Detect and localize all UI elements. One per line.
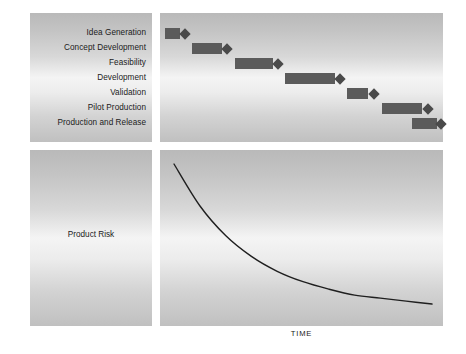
- phase-label-idea-generation: Idea Generation: [30, 25, 146, 40]
- gantt-milestone-marker: [334, 73, 345, 84]
- gantt-milestone-marker: [435, 118, 446, 129]
- phase-label-development: Development: [30, 70, 146, 85]
- phase-label-production-and-release: Production and Release: [30, 115, 146, 130]
- gantt-bar: [285, 73, 335, 84]
- gantt-bar: [165, 28, 180, 39]
- phase-label-concept-development: Concept Development: [30, 40, 146, 55]
- risk-decay-curve: [160, 150, 443, 326]
- product-risk-label: Product Risk: [30, 230, 152, 239]
- risk-curve-panel: [160, 150, 443, 326]
- gantt-row: [160, 115, 443, 130]
- gantt-bar: [192, 43, 222, 54]
- phase-label-validation: Validation: [30, 85, 146, 100]
- gantt-chart-panel: [160, 13, 443, 142]
- gantt-rows: [160, 13, 443, 142]
- gantt-milestone-marker: [272, 58, 283, 69]
- gantt-bar: [412, 118, 437, 129]
- phase-label-pilot-production: Pilot Production: [30, 100, 146, 115]
- gantt-milestone-marker: [179, 28, 190, 39]
- phase-label-list: Idea Generation Concept Development Feas…: [30, 13, 146, 142]
- gantt-row: [160, 55, 443, 70]
- gantt-milestone-marker: [422, 103, 433, 114]
- gantt-milestone-marker: [368, 88, 379, 99]
- time-axis-label: TIME: [160, 329, 443, 338]
- gantt-row: [160, 85, 443, 100]
- figure-canvas: Idea Generation Concept Development Feas…: [0, 0, 466, 354]
- gantt-bar: [347, 88, 368, 99]
- gantt-bar: [235, 58, 273, 69]
- gantt-row: [160, 25, 443, 40]
- gantt-row: [160, 40, 443, 55]
- gantt-row: [160, 100, 443, 115]
- gantt-row: [160, 70, 443, 85]
- phase-labels-panel: Idea Generation Concept Development Feas…: [30, 13, 152, 142]
- gantt-milestone-marker: [221, 43, 232, 54]
- gantt-bar: [382, 103, 422, 114]
- phase-label-feasibility: Feasibility: [30, 55, 146, 70]
- product-risk-panel: Product Risk: [30, 150, 152, 326]
